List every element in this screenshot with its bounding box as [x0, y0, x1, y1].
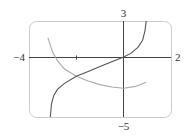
- graph-plot: −4 2 3 −5: [0, 0, 190, 138]
- x-min-label: −4: [13, 51, 25, 63]
- y-min-label: −5: [118, 120, 130, 132]
- y-max-label: 3: [121, 7, 127, 19]
- light-curve: [48, 38, 146, 88]
- viewing-frame: [30, 22, 172, 118]
- x-max-label: 2: [175, 51, 181, 63]
